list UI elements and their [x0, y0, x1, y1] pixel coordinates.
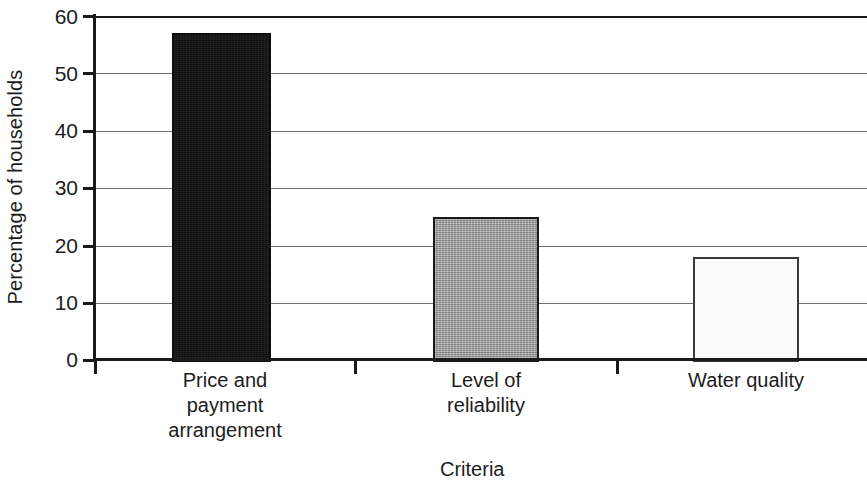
x-tick-mark-0 — [94, 360, 97, 374]
y-tick-label-20: 20 — [32, 235, 78, 256]
x-tick-mark-1 — [354, 360, 357, 374]
y-axis-line — [93, 14, 96, 362]
bar-chart-figure: Percentage of households 0 10 20 30 40 5… — [0, 0, 867, 489]
x-category-label-level-of-reliability: Level of reliability — [406, 368, 566, 418]
y-tick-label-60-wrapper: 60 — [18, 6, 78, 27]
x-category-label-water-quality: Water quality — [666, 368, 826, 393]
y-tick-label-40: 40 — [32, 120, 78, 141]
y-tick-label-60: 60 — [32, 6, 78, 27]
bar-level-of-reliability — [433, 217, 539, 362]
y-tick-label-40-wrapper: 40 — [18, 120, 78, 141]
y-tick-label-0-wrapper: 0 — [18, 349, 78, 370]
x-axis-line — [93, 358, 867, 361]
gridline-60 — [95, 16, 867, 18]
bar-price-and-payment-arrangement — [172, 33, 271, 362]
y-tick-label-50: 50 — [32, 63, 78, 84]
x-category-label-price-and-payment-arrangement: Price and payment arrangement — [145, 368, 305, 443]
y-tick-label-50-wrapper: 50 — [18, 63, 78, 84]
y-tick-label-30: 30 — [32, 177, 78, 198]
x-category-label-line-2: reliability — [406, 393, 566, 418]
y-tick-label-20-wrapper: 20 — [18, 235, 78, 256]
x-category-label-line-1: Water quality — [666, 368, 826, 393]
bar-water-quality — [693, 257, 799, 362]
y-tick-label-10: 10 — [32, 292, 78, 313]
x-axis-title: Criteria — [440, 458, 504, 481]
x-category-label-line-3: arrangement — [145, 418, 305, 443]
x-category-label-line-1: Price and — [145, 368, 305, 393]
x-category-label-line-2: payment — [145, 393, 305, 418]
x-tick-mark-2 — [616, 360, 619, 374]
y-tick-label-30-wrapper: 30 — [18, 177, 78, 198]
y-tick-label-0: 0 — [32, 349, 78, 370]
y-tick-label-10-wrapper: 10 — [18, 292, 78, 313]
x-category-label-line-1: Level of — [406, 368, 566, 393]
